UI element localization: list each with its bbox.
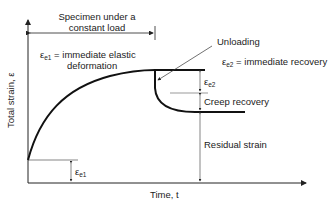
y-axis-label: Total strain, ε [5,73,16,128]
ee2-dimension-label: εe2 [204,76,215,90]
ee1-dim-sub: e1 [79,171,86,178]
creep-diagram [0,0,335,210]
load-period-line2: constant load [52,22,142,33]
residual-strain-label: Residual strain [204,139,267,150]
ee1-text: = immediate elastic [51,49,135,60]
load-period-line1: Specimen under a [52,11,142,22]
unloading-leader [158,46,212,80]
ee2-definition: εe2 = immediate recovery [222,56,327,70]
creep-curve [28,70,205,160]
ee2-text: = immediate recovery [233,56,327,67]
ee2-dim-sub: e2 [208,81,215,88]
ee1-dimension-label: εe1 [75,166,86,180]
unloading-label: Unloading [217,36,260,47]
creep-recovery-label: Creep recovery [204,96,269,107]
ee1-definition-line2: deformation [67,60,117,71]
load-period-label: Specimen under a constant load [52,11,142,33]
x-axis-label: Time, t [150,189,179,200]
